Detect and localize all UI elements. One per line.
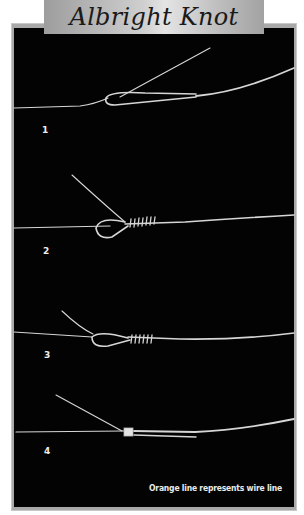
step-number: 3 (44, 350, 50, 360)
step-number: 4 (44, 446, 50, 456)
step-1-illustration (14, 48, 294, 108)
step-number: 2 (43, 246, 49, 256)
step-3-illustration (14, 311, 294, 346)
step-2-illustration (14, 175, 294, 238)
legend-caption: Orange line represents wire line (149, 483, 282, 493)
step-4-illustration (16, 395, 294, 437)
step-number: 1 (42, 125, 48, 135)
knot-illustrations (0, 0, 304, 515)
